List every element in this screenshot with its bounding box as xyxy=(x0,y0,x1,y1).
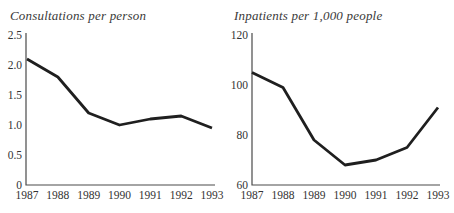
x-tick-label: 1992 xyxy=(170,189,193,201)
y-tick-label: 0.5 xyxy=(8,149,23,161)
y-tick-label: 1.0 xyxy=(8,119,23,131)
x-tick-label: 1989 xyxy=(303,189,326,201)
x-tick-label: 1987 xyxy=(241,189,264,201)
x-tick-label: 1988 xyxy=(272,189,295,201)
chart-inpatients-per-1000-people: Inpatients per 1,000 people 608010012019… xyxy=(227,0,454,213)
x-tick-label: 1991 xyxy=(365,189,388,201)
chart-svg-0: 00.51.01.52.02.5198719881989199019911992… xyxy=(0,0,227,213)
x-tick-label: 1993 xyxy=(427,189,450,201)
y-tick-label: 100 xyxy=(231,79,249,91)
chart-consultations-per-person: Consultations per person 00.51.01.52.02.… xyxy=(0,0,227,213)
x-tick-label: 1991 xyxy=(139,189,162,201)
x-tick-label: 1990 xyxy=(334,189,357,201)
x-tick-label: 1989 xyxy=(77,189,100,201)
axis-lines xyxy=(252,33,440,185)
y-tick-label: 2.0 xyxy=(8,59,23,71)
y-tick-label: 80 xyxy=(237,129,249,141)
y-tick-label: 2.5 xyxy=(8,29,23,41)
axis-lines xyxy=(26,33,215,185)
data-line xyxy=(27,59,212,128)
x-tick-label: 1990 xyxy=(108,189,131,201)
x-tick-label: 1987 xyxy=(16,189,39,201)
y-tick-label: 1.5 xyxy=(8,89,23,101)
x-tick-label: 1993 xyxy=(201,189,224,201)
x-tick-label: 1992 xyxy=(396,189,419,201)
y-tick-label: 120 xyxy=(231,29,249,41)
data-line xyxy=(252,73,438,166)
x-tick-label: 1988 xyxy=(46,189,69,201)
chart-svg-1: 60801001201987198819891990199119921993 xyxy=(227,0,454,213)
